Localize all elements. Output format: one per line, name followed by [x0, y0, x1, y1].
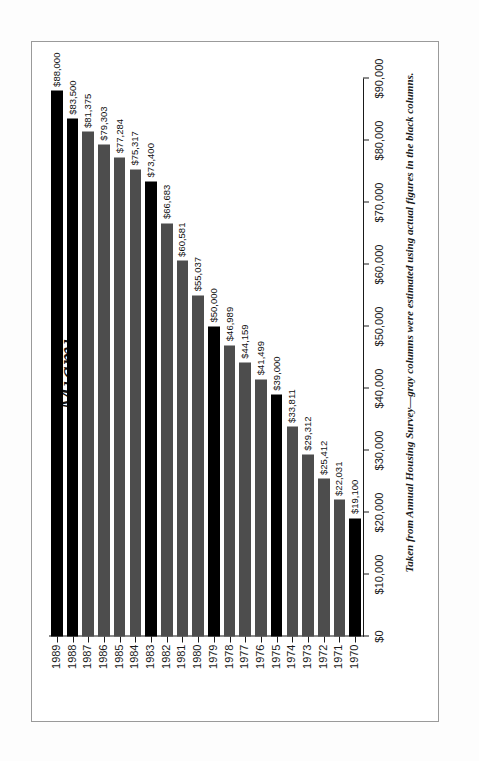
bar-value-label-1975: $39,000: [271, 356, 282, 390]
value-tick-label: $40,000: [373, 356, 385, 420]
bar-1984: [130, 169, 142, 636]
category-label-1979: 1979: [207, 644, 219, 722]
bar-value-label-1974: $33,811: [286, 389, 297, 423]
category-label-1977: 1977: [238, 644, 250, 722]
category-label-1975: 1975: [270, 644, 282, 722]
category-label-1972: 1972: [317, 644, 329, 722]
category-tick-mark: [324, 636, 325, 642]
chart-footnote: Taken from Annual Housing Survey—gray co…: [403, 72, 415, 572]
category-tick-mark: [230, 636, 231, 642]
bar-1981: [177, 260, 189, 636]
value-tick-mark: [363, 511, 369, 512]
category-tick-mark: [135, 636, 136, 642]
bar-value-label-1977: $44,159: [239, 324, 250, 358]
bar-1979: [208, 326, 220, 636]
bar-value-label-1989: $88,000: [51, 52, 62, 86]
value-axis-line: [363, 78, 364, 636]
category-tick-mark: [167, 636, 168, 642]
category-tick-mark: [104, 636, 105, 642]
value-tick-mark: [363, 635, 369, 636]
category-label-1980: 1980: [191, 644, 203, 722]
chart-landscape-canvas: Miami $0$10,000$20,000$30,000$40,000$50,…: [31, 41, 439, 722]
bar-value-label-1976: $41,499: [255, 340, 266, 374]
bar-value-label-1970: $19,100: [349, 479, 360, 513]
value-tick-label: $80,000: [373, 108, 385, 172]
bar-value-label-1982: $66,683: [161, 184, 172, 218]
category-tick-mark: [261, 636, 262, 642]
bar-value-label-1988: $83,500: [67, 80, 78, 114]
value-tick-label: $30,000: [373, 418, 385, 482]
chart-body: Miami $0$10,000$20,000$30,000$40,000$50,…: [31, 41, 439, 722]
bar-1974: [287, 426, 299, 636]
bar-1988: [67, 118, 79, 636]
category-tick-mark: [182, 636, 183, 642]
bar-value-label-1985: $77,284: [114, 119, 125, 153]
value-tick-label: $0: [373, 604, 385, 668]
category-label-1987: 1987: [81, 644, 93, 722]
bar-1977: [239, 362, 251, 636]
bar-1986: [98, 144, 110, 636]
bar-value-label-1987: $81,375: [82, 93, 93, 127]
bar-1987: [82, 131, 94, 636]
category-tick-mark: [198, 636, 199, 642]
category-tick-mark: [308, 636, 309, 642]
bar-1972: [318, 478, 330, 636]
value-tick-mark: [363, 263, 369, 264]
category-tick-mark: [292, 636, 293, 642]
category-label-1989: 1989: [50, 644, 62, 722]
category-label-1981: 1981: [175, 644, 187, 722]
bar-1971: [334, 499, 346, 636]
category-label-1970: 1970: [348, 644, 360, 722]
category-label-1974: 1974: [285, 644, 297, 722]
category-tick-mark: [245, 636, 246, 642]
category-label-1971: 1971: [332, 644, 344, 722]
bar-value-label-1972: $25,412: [318, 440, 329, 474]
value-tick-mark: [363, 325, 369, 326]
bar-value-label-1979: $50,000: [208, 288, 219, 322]
bar-1983: [145, 181, 157, 636]
value-tick-mark: [363, 77, 369, 78]
category-tick-mark: [57, 636, 58, 642]
bar-value-label-1980: $55,037: [192, 256, 203, 290]
bar-1975: [271, 394, 283, 636]
category-tick-mark: [277, 636, 278, 642]
category-label-1978: 1978: [223, 644, 235, 722]
plot-area: $19,100$22,031$25,412$29,312$33,811$39,0…: [49, 78, 363, 636]
bar-1989: [51, 90, 63, 636]
bar-1976: [255, 379, 267, 636]
category-tick-mark: [120, 636, 121, 642]
category-label-1973: 1973: [301, 644, 313, 722]
value-tick-label: $70,000: [373, 170, 385, 234]
bar-value-label-1983: $73,400: [145, 143, 156, 177]
bar-value-label-1978: $46,989: [224, 306, 235, 340]
scanned-page: Miami $0$10,000$20,000$30,000$40,000$50,…: [0, 0, 479, 761]
category-label-1982: 1982: [160, 644, 172, 722]
category-label-1984: 1984: [128, 644, 140, 722]
category-tick-mark: [73, 636, 74, 642]
value-tick-label: $90,000: [373, 46, 385, 110]
bar-1973: [302, 454, 314, 636]
value-tick-label: $50,000: [373, 294, 385, 358]
value-tick-mark: [363, 139, 369, 140]
bar-1985: [114, 157, 126, 636]
value-tick-mark: [363, 449, 369, 450]
bar-1978: [224, 345, 236, 636]
category-label-1983: 1983: [144, 644, 156, 722]
value-tick-label: $60,000: [373, 232, 385, 296]
bar-1970: [349, 518, 361, 636]
category-label-1976: 1976: [254, 644, 266, 722]
category-tick-mark: [151, 636, 152, 642]
value-tick-label: $10,000: [373, 542, 385, 606]
category-label-1985: 1985: [113, 644, 125, 722]
bar-value-label-1981: $60,581: [176, 222, 187, 256]
bar-value-label-1971: $22,031: [333, 461, 344, 495]
rotated-chart-wrapper: Miami $0$10,000$20,000$30,000$40,000$50,…: [31, 41, 439, 722]
category-tick-mark: [214, 636, 215, 642]
bar-value-label-1984: $75,317: [129, 131, 140, 165]
value-tick-mark: [363, 573, 369, 574]
category-tick-mark: [88, 636, 89, 642]
category-label-1986: 1986: [97, 644, 109, 722]
bar-1980: [192, 295, 204, 636]
category-tick-mark: [355, 636, 356, 642]
value-tick-label: $20,000: [373, 480, 385, 544]
